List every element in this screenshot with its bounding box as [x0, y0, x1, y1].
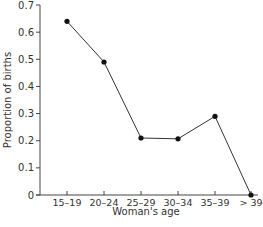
x-tick-label: > 39	[239, 197, 262, 208]
y-tick-label: 0.7	[18, 0, 34, 11]
y-tick-label: 0.1	[18, 162, 34, 173]
y-axis-label: Proportion of births	[2, 52, 13, 148]
data-point-marker	[212, 114, 217, 119]
y-tick-label: 0.5	[18, 54, 34, 65]
y-tick-label: 0.2	[18, 135, 34, 146]
data-series	[64, 19, 253, 198]
data-point-marker	[101, 59, 106, 64]
x-tick-label: 35–39	[201, 197, 230, 208]
x-tick-label: 15–19	[53, 197, 82, 208]
series-line	[67, 21, 251, 195]
y-tick-label: 0.4	[18, 81, 34, 92]
data-point-marker	[175, 136, 180, 141]
y-tick-label: 0.3	[18, 108, 34, 119]
line-chart: 00.10.20.30.40.50.60.7 15–1920–2425–2930…	[0, 0, 263, 227]
data-point-marker	[248, 192, 253, 197]
data-point-marker	[138, 135, 143, 140]
y-axis-ticks: 00.10.20.30.40.50.60.7	[18, 0, 40, 201]
axes	[36, 5, 258, 195]
x-axis-label: Woman's age	[112, 206, 179, 217]
y-tick-label: 0	[28, 190, 34, 201]
y-tick-label: 0.6	[18, 27, 34, 38]
data-point-marker	[64, 19, 69, 24]
